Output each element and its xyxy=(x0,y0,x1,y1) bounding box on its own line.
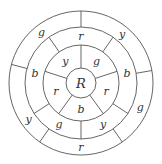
ring-1-sector-label: r xyxy=(104,85,110,98)
ring-2-sector-label: g xyxy=(55,118,62,131)
ring-2-sector-label: y xyxy=(99,118,107,131)
sector-divider xyxy=(103,37,113,52)
ring-2-sector-label: b xyxy=(31,67,38,80)
sector-divider xyxy=(40,129,49,142)
ring-2-sector-label: b xyxy=(123,67,130,80)
ring-1-sector-label: r xyxy=(53,85,59,98)
sector-divider xyxy=(49,37,59,52)
sector-divider xyxy=(95,71,117,78)
sector-divider xyxy=(113,129,122,142)
sector-divider xyxy=(113,104,128,114)
sector-divider xyxy=(59,95,72,114)
ring-2-sector-label: r xyxy=(78,30,84,43)
color-ring-diagram: grbryrbygbygryg R xyxy=(0,0,162,164)
ring-3-sector-label: y xyxy=(24,113,32,126)
ring-1-sector-label: b xyxy=(77,103,84,116)
ring-1-sector-label: y xyxy=(61,55,69,68)
sector-divider xyxy=(90,95,104,114)
sector-divider xyxy=(34,104,49,114)
sector-divider xyxy=(12,64,27,68)
ring-3-sector-label: r xyxy=(78,141,84,154)
center-label: R xyxy=(75,76,86,91)
ring-3-sector-label: g xyxy=(38,26,45,39)
sector-divider xyxy=(136,71,152,74)
sector-divider xyxy=(45,71,67,78)
ring-3-sector-label: g xyxy=(137,101,144,114)
ring-3-sector-label: y xyxy=(118,28,126,41)
ring-1-sector-label: g xyxy=(93,55,100,68)
